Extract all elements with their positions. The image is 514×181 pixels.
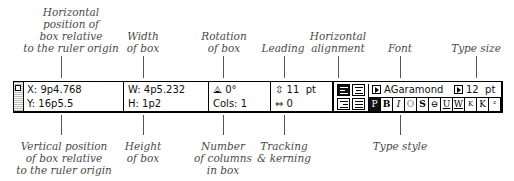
callout-type-style: Type style <box>370 140 430 152</box>
y-position-field[interactable]: Y: 16p5.5 <box>27 98 73 110</box>
callout-horizontal-alignment: Horizontal alignment <box>306 30 370 54</box>
style-italic-button[interactable]: I <box>392 98 404 111</box>
type-size-menu[interactable]: 12 pt <box>454 84 501 98</box>
style-all-caps-button[interactable]: K <box>476 98 488 111</box>
popup-arrow-icon[interactable] <box>372 85 381 94</box>
leader-line <box>143 56 144 78</box>
style-bold-button[interactable]: B <box>380 98 392 111</box>
leader-line <box>400 56 401 78</box>
popup-arrow-icon[interactable] <box>454 85 463 94</box>
align-center-button[interactable] <box>352 84 365 96</box>
measurements-palette: X: 9p4.768 Y: 16p5.5 W: 4p5.232 H: 1p2 ⟁… <box>13 81 503 113</box>
x-position-field[interactable]: X: 9p4.768 <box>27 84 82 96</box>
callout-width: Width of box <box>118 30 168 54</box>
style-small-caps-button[interactable]: K <box>464 98 476 111</box>
rotation-icon: ⟁ <box>213 84 225 95</box>
leader-line <box>143 115 144 135</box>
rotation-field[interactable]: ⟁ 0° <box>213 84 237 96</box>
leading-arrows-icon[interactable]: ⇳ <box>275 84 287 95</box>
leader-line <box>476 56 477 78</box>
tracking-arrows-icon[interactable]: ⇔ <box>275 98 287 109</box>
style-outline-button[interactable]: O <box>404 98 416 111</box>
leader-line <box>284 56 285 78</box>
height-field[interactable]: H: 1p2 <box>128 98 161 110</box>
style-superscript-button[interactable]: ² <box>488 98 500 111</box>
callout-type-size: Type size <box>450 42 502 54</box>
align-justify-button[interactable] <box>352 98 365 110</box>
callout-font: Font <box>380 42 420 54</box>
size-section: W: 4p5.232 H: 1p2 <box>124 82 209 111</box>
callout-columns: Number of columns in box <box>190 140 256 176</box>
position-section: X: 9p4.768 Y: 16p5.5 <box>23 82 124 111</box>
style-underline-button[interactable]: U <box>440 98 452 111</box>
callout-leading: Leading <box>258 42 308 54</box>
callout-tracking-kerning: Tracking & kerning <box>254 140 314 164</box>
leading-field[interactable]: ⇳ 11 pt <box>275 84 316 96</box>
leader-line <box>284 115 285 135</box>
width-field[interactable]: W: 4p5.232 <box>128 84 185 96</box>
leader-line <box>223 56 224 78</box>
leading-tracking-section: ⇳ 11 pt ⇔ 0 <box>271 82 334 111</box>
font-menu[interactable]: AGaramond <box>368 84 458 98</box>
callout-rotation: Rotation of box <box>196 30 252 54</box>
callout-horizontal-position: Horizontal position of box relative to t… <box>20 6 122 54</box>
leader-line <box>61 56 62 78</box>
style-word-underline-button[interactable]: W <box>452 98 464 111</box>
align-right-button[interactable] <box>337 98 350 110</box>
leader-line <box>223 115 224 135</box>
align-left-button[interactable] <box>337 84 350 96</box>
rotation-columns-section: ⟁ 0° Cols: 1 <box>209 82 271 111</box>
style-shadow-button[interactable]: S <box>416 98 428 111</box>
close-box-icon[interactable] <box>15 85 21 91</box>
style-plain-button[interactable]: P <box>368 98 380 111</box>
columns-field[interactable]: Cols: 1 <box>213 98 247 110</box>
style-subscript-button[interactable] <box>500 98 501 111</box>
tracking-field[interactable]: ⇔ 0 <box>275 98 293 110</box>
callout-height: Height of box <box>118 140 168 164</box>
leader-line <box>61 115 62 135</box>
callout-vertical-position: Vertical position of box relative to the… <box>14 140 114 176</box>
leader-line <box>338 56 339 78</box>
style-strikethrough-button[interactable]: ⊖ <box>428 98 440 111</box>
leader-line <box>400 115 401 135</box>
